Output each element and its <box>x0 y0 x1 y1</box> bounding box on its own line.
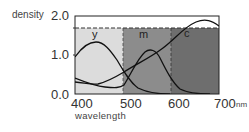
ytick-0: 0.0 <box>51 87 69 102</box>
x-unit-label: nm <box>236 100 247 109</box>
xtick-700: 700 <box>214 96 236 111</box>
xtick-400: 400 <box>71 96 93 111</box>
band-c <box>171 28 219 94</box>
y-axis-label: density <box>12 9 44 20</box>
ytick-1: 1.0 <box>51 47 69 62</box>
xtick-500: 500 <box>120 96 142 111</box>
xtick-600: 600 <box>168 96 190 111</box>
ytick-2: 2.0 <box>51 8 69 23</box>
band-label-c: c <box>184 27 190 39</box>
band-label-m: m <box>139 28 148 40</box>
band-label-y: y <box>92 28 98 40</box>
x-axis-label: wavelength <box>75 110 126 121</box>
